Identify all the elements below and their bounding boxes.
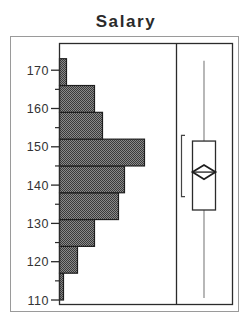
histogram-bar bbox=[60, 59, 67, 86]
histogram-bar bbox=[60, 220, 95, 247]
tick-label: 130 bbox=[27, 217, 49, 231]
histogram-bar bbox=[60, 246, 78, 273]
quartile-box bbox=[193, 141, 216, 210]
outlier-box-plot bbox=[182, 61, 216, 298]
histogram-bars bbox=[60, 59, 145, 300]
shortest-half-bracket bbox=[182, 135, 186, 196]
tick-label: 120 bbox=[27, 255, 49, 269]
chart-canvas: 110120130140150160170 bbox=[0, 0, 252, 324]
tick-label: 110 bbox=[28, 294, 49, 308]
tick-label: 140 bbox=[27, 179, 49, 193]
histogram-bar bbox=[60, 193, 119, 220]
histogram-bar bbox=[60, 112, 103, 139]
tick-label: 150 bbox=[27, 140, 49, 154]
tick-label: 160 bbox=[27, 102, 49, 116]
histogram-bar bbox=[60, 166, 125, 193]
histogram-bar bbox=[60, 86, 95, 113]
y-axis: 110120130140150160170 bbox=[27, 64, 60, 308]
tick-label: 170 bbox=[27, 64, 49, 78]
histogram-bar bbox=[60, 139, 145, 166]
